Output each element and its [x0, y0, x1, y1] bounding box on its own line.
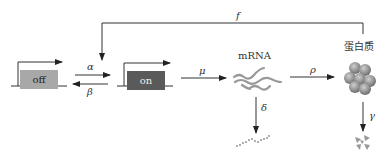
delta-label: δ	[261, 102, 267, 113]
degraded-protein-icon	[355, 135, 370, 150]
diagram-canvas	[0, 0, 389, 157]
degraded-mrna-icon	[236, 135, 270, 147]
feedback-label: f	[236, 10, 240, 21]
on-state-label: on	[140, 75, 152, 86]
mrna-icon	[234, 68, 281, 90]
gamma-label: γ	[369, 110, 375, 121]
protein-icon	[344, 62, 376, 95]
alpha-label: α	[87, 61, 94, 72]
mrna-label: mRNA	[238, 50, 271, 61]
on-state-box: on	[127, 71, 165, 90]
feedback-line	[102, 23, 363, 60]
off-state-box: off	[20, 70, 58, 89]
protein-label: 蛋白质	[344, 38, 374, 53]
beta-label: β	[87, 86, 93, 97]
mu-label: μ	[199, 65, 206, 76]
rho-label: ρ	[310, 64, 316, 75]
off-state-label: off	[32, 74, 45, 85]
